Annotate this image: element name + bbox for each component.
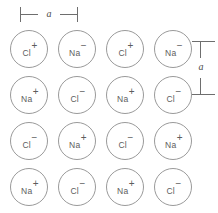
ion-charge-sign: + <box>33 179 39 189</box>
crystal-lattice-figure: Cl+Na−Cl+Na−Na+Cl−Na+Cl−Cl−Na+Cl−Na+Na+C… <box>0 0 218 213</box>
ion-charge-sign: − <box>79 179 85 189</box>
ion-circle: Cl− <box>10 122 48 160</box>
ion-label: Cl+ <box>107 31 145 69</box>
ion-symbol: Cl <box>119 140 127 149</box>
vertical-dimension-label: a <box>194 60 208 74</box>
ion-circle: Na− <box>154 30 192 68</box>
ion-circle: Na+ <box>58 122 96 160</box>
ion-label: Cl− <box>11 123 49 161</box>
ion-symbol: Na <box>117 94 128 103</box>
dimension-tick-right <box>77 7 78 22</box>
ion-circle: Na+ <box>10 168 48 206</box>
ion-lattice-grid: Cl+Na−Cl+Na−Na+Cl−Na+Cl−Cl−Na+Cl−Na+Na+C… <box>0 0 218 213</box>
ion-charge-sign: − <box>127 133 133 143</box>
ion-circle: Na+ <box>106 76 144 114</box>
ion-label: Na− <box>59 31 97 69</box>
ion-symbol: Na <box>69 140 80 149</box>
ion-symbol: Cl <box>167 186 175 195</box>
ion-label: Na+ <box>107 169 145 207</box>
ion-charge-sign: + <box>129 179 135 189</box>
ion-charge-sign: − <box>175 179 181 189</box>
ion-label: Cl− <box>59 77 97 115</box>
ion-charge-sign: − <box>81 41 87 51</box>
ion-symbol: Cl <box>23 140 31 149</box>
ion-charge-sign: + <box>127 41 133 51</box>
ion-charge-sign: + <box>129 87 135 97</box>
ion-label: Na+ <box>11 169 49 207</box>
ion-charge-sign: + <box>33 87 39 97</box>
ion-charge-sign: + <box>177 133 183 143</box>
ion-charge-sign: − <box>31 133 37 143</box>
ion-circle: Cl− <box>106 122 144 160</box>
ion-label: Na+ <box>155 123 193 161</box>
vertical-dimension-marker: a <box>192 41 216 95</box>
dimension-tick-top <box>192 41 215 42</box>
ion-circle: Cl− <box>58 168 96 206</box>
ion-label: Na− <box>155 31 193 69</box>
ion-circle: Cl+ <box>106 30 144 68</box>
horizontal-dimension-marker: a <box>20 7 78 23</box>
ion-label: Cl− <box>107 123 145 161</box>
ion-circle: Cl− <box>58 76 96 114</box>
ion-label: Cl− <box>59 169 97 207</box>
ion-charge-sign: + <box>81 133 87 143</box>
dimension-tick-bottom <box>192 94 215 95</box>
ion-label: Na+ <box>59 123 97 161</box>
ion-charge-sign: − <box>79 87 85 97</box>
dimension-line-right <box>60 14 78 15</box>
ion-symbol: Na <box>21 94 32 103</box>
ion-label: Cl− <box>155 77 193 115</box>
ion-charge-sign: − <box>175 87 181 97</box>
ion-symbol: Na <box>165 140 176 149</box>
ion-circle: Na+ <box>154 122 192 160</box>
ion-symbol: Cl <box>71 186 79 195</box>
ion-label: Cl− <box>155 169 193 207</box>
ion-symbol: Na <box>69 48 80 57</box>
ion-circle: Na− <box>58 30 96 68</box>
ion-symbol: Na <box>165 48 176 57</box>
ion-circle: Cl− <box>154 168 192 206</box>
ion-label: Na+ <box>107 77 145 115</box>
dimension-line-lower <box>200 78 201 95</box>
ion-circle: Na+ <box>106 168 144 206</box>
ion-charge-sign: + <box>31 41 37 51</box>
ion-symbol: Cl <box>23 48 31 57</box>
ion-circle: Na+ <box>10 76 48 114</box>
ion-circle: Cl− <box>154 76 192 114</box>
dimension-line-upper <box>200 41 201 58</box>
ion-symbol: Cl <box>71 94 79 103</box>
ion-symbol: Na <box>117 186 128 195</box>
ion-symbol: Cl <box>119 48 127 57</box>
ion-charge-sign: − <box>177 41 183 51</box>
ion-symbol: Cl <box>167 94 175 103</box>
ion-label: Cl+ <box>11 31 49 69</box>
ion-symbol: Na <box>21 186 32 195</box>
ion-circle: Cl+ <box>10 30 48 68</box>
ion-label: Na+ <box>11 77 49 115</box>
